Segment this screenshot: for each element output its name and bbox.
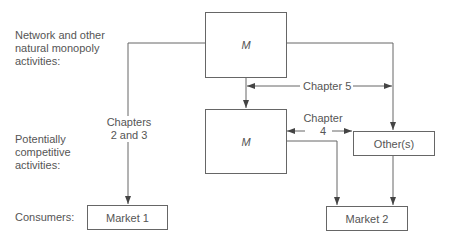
row-label-consumers: Consumers:: [15, 211, 74, 224]
market1-label: Market 1: [106, 212, 149, 224]
lower-m-label: M: [241, 136, 250, 148]
market1-box: Market 1: [87, 205, 168, 230]
row-label-network: Network and other natural monopoly activ…: [15, 29, 125, 68]
chapters-2-3-annotation: Chapters 2 and 3: [106, 116, 152, 142]
top-m-label: M: [241, 39, 250, 51]
ch4-line1: Chapter: [302, 112, 344, 125]
chapter-5-annotation: Chapter 5: [301, 80, 353, 93]
ch4-line2: 4: [302, 125, 344, 138]
ch23-line2: 2 and 3: [106, 129, 152, 142]
market2-label: Market 2: [346, 213, 389, 225]
market2-box: Market 2: [326, 206, 408, 231]
chapter-4-annotation: Chapter 4: [302, 112, 344, 138]
row-label-competitive: Potentially competitive activities:: [15, 133, 85, 172]
others-box: Other(s): [353, 131, 435, 156]
others-label: Other(s): [374, 138, 414, 150]
ch23-line1: Chapters: [106, 116, 152, 129]
top-monopoly-box: M: [205, 12, 287, 78]
lower-monopoly-box: M: [205, 109, 287, 174]
